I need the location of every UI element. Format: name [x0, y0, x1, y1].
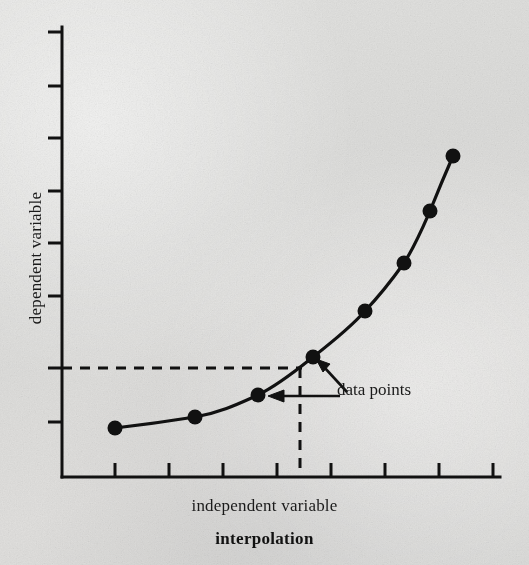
data-points-annotation-label: data points	[337, 380, 411, 400]
data-point	[397, 256, 412, 271]
interpolation-guides	[62, 368, 302, 477]
x-axis-ticks	[115, 463, 493, 477]
y-axis-ticks	[48, 32, 62, 422]
y-axis-label: dependent variable	[26, 178, 46, 338]
data-points-arrow-lower-head	[268, 390, 284, 402]
plot-canvas	[0, 0, 529, 565]
x-axis-label: independent variable	[0, 496, 529, 516]
data-point	[446, 149, 461, 164]
data-point	[188, 410, 203, 425]
data-point	[108, 421, 123, 436]
data-point	[423, 204, 438, 219]
data-point	[358, 304, 373, 319]
data-point	[251, 388, 266, 403]
axes-group	[62, 27, 500, 477]
figure-caption: interpolation	[0, 529, 529, 549]
interpolation-figure: dependent variable independent variable …	[0, 0, 529, 565]
